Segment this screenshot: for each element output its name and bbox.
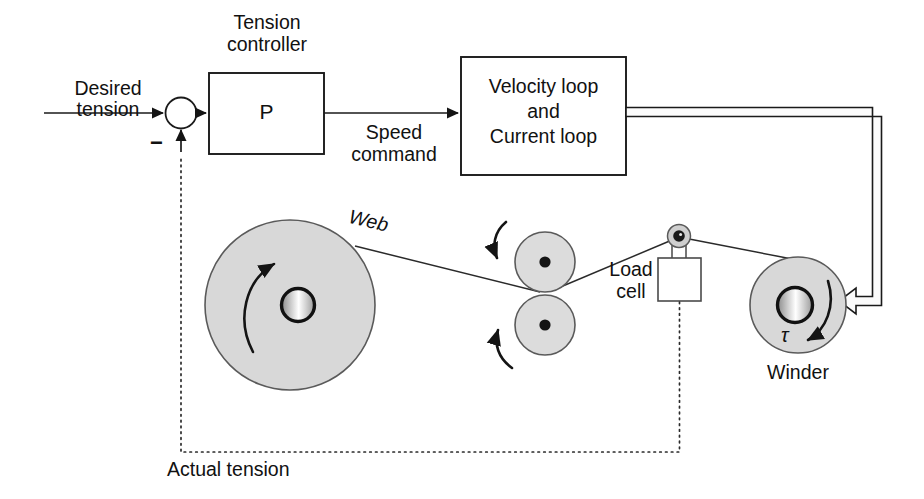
speed-command-label-line1: Speed (338, 122, 450, 144)
velocity-block-label-line3: Current loop (461, 124, 626, 149)
load-cell-label-group: Load cell (604, 259, 658, 303)
velocity-block-label-line1: Velocity loop (461, 74, 626, 99)
load-cell-label-line2: cell (604, 281, 658, 303)
unwind-roll (205, 220, 375, 390)
diagram-canvas: Desired tension − Tension controller P S… (0, 0, 924, 499)
velocity-current-loop-label-group: Velocity loop and Current loop (461, 74, 626, 149)
speed-command-label-group: Speed command (338, 122, 450, 166)
desired-tension-label-group: Desired tension (48, 78, 168, 120)
web-segment-loadcell-to-winder (684, 238, 792, 259)
summing-junction-minus-sign: − (150, 132, 163, 154)
load-cell-pulley-highlight (679, 233, 682, 236)
winder-torque-label: τ (781, 325, 788, 345)
actual-tension-label: Actual tension (167, 460, 290, 480)
load-cell-body-rect[interactable] (658, 258, 701, 301)
nip-roller-bottom-center (539, 319, 550, 330)
tension-controller-caption-group: Tension controller (206, 12, 328, 56)
winder-roll (750, 257, 846, 353)
speed-command-label-line2: command (338, 144, 450, 166)
tension-controller-caption-line1: Tension (206, 12, 328, 34)
load-cell-label-line1: Load (604, 259, 658, 281)
desired-tension-label-line2: tension (48, 99, 168, 119)
nip-roller-bottom (497, 295, 575, 368)
unwind-roll-core (282, 289, 315, 322)
tension-controller-caption-line2: controller (206, 34, 328, 56)
summing-junction (166, 98, 207, 153)
winder-label: Winder (748, 363, 848, 383)
velocity-block-label-line2: and (461, 99, 626, 124)
nip-roller-bottom-rotation-arrow (497, 330, 512, 368)
nip-roller-top-center (539, 256, 550, 267)
load-cell-pulley-hub (673, 230, 685, 242)
controller-block-label: P (209, 101, 324, 122)
web-segment-unwind-to-nip (355, 246, 540, 292)
summing-junction-circle (166, 98, 197, 129)
desired-tension-label-line1: Desired (48, 78, 168, 98)
nip-roller-top-rotation-arrow (494, 222, 506, 258)
winder-roll-core (778, 288, 813, 323)
load-cell[interactable] (658, 225, 701, 302)
nip-roller-top (494, 222, 575, 292)
